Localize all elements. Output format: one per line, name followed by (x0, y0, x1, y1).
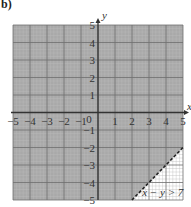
y-tick-label: 3 (90, 54, 96, 66)
x-tick-label: −3 (41, 115, 53, 127)
y-tick-label: 2 (90, 72, 96, 84)
y-tick-label: 1 (90, 89, 96, 101)
inequality-graph: −5−4−3−2−1012345−5−4−3−2−112345xyx − y >… (0, 0, 191, 207)
y-axis-arrow-icon (96, 18, 101, 23)
y-axis-label: y (101, 9, 107, 21)
x-axis-label: x (186, 100, 191, 112)
y-tick-label: −5 (83, 194, 95, 206)
x-tick-label: 0 (86, 113, 92, 125)
x-tick-label: −5 (7, 115, 19, 127)
x-tick-label: 4 (163, 115, 169, 127)
y-tick-label: −3 (83, 159, 95, 171)
x-tick-label: 2 (129, 115, 135, 127)
x-tick-label: 1 (112, 115, 118, 127)
y-tick-label: −4 (83, 177, 95, 189)
y-tick-label: −1 (83, 124, 95, 136)
x-tick-label: 5 (180, 115, 186, 127)
y-tick-label: −2 (83, 142, 95, 154)
y-tick-label: 4 (90, 37, 96, 49)
x-tick-label: −2 (58, 115, 70, 127)
x-tick-label: 3 (146, 115, 152, 127)
y-tick-label: 5 (90, 19, 96, 31)
x-tick-label: −4 (24, 115, 36, 127)
inequality-annotation: x − y > 7 (141, 186, 184, 198)
